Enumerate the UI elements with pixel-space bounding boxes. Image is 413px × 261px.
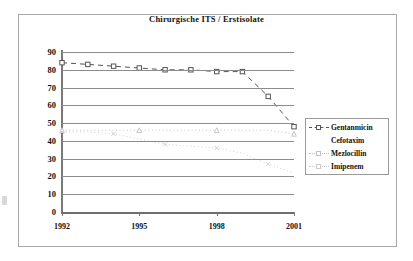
y-tick-label: 0: [28, 207, 56, 217]
gridline: [62, 159, 294, 160]
legend-item-gentanmicin: Gentanmicin: [309, 121, 385, 134]
x-tick-label: 2001: [286, 222, 302, 231]
series-line-imipenem: [62, 132, 294, 173]
plot-area: [62, 52, 294, 212]
series-line-mezlocillin: [62, 130, 294, 134]
y-tick-label: 70: [28, 83, 56, 93]
data-point-marker: [111, 64, 115, 68]
chart-title: Chirurgische ITS / Erstisolate: [0, 14, 413, 24]
series-line-gentanmicin: [62, 63, 294, 127]
y-tick-label: 40: [28, 136, 56, 146]
legend-label: Imipenem: [331, 162, 364, 171]
chart-legend: GentanmicinCefotaximMezlocillinImipenem: [305, 118, 389, 175]
legend-swatch-icon: [309, 162, 329, 171]
y-axis-tick-labels: 9080706050403020100: [26, 52, 56, 212]
x-axis-line: [62, 212, 294, 214]
data-point-marker: [86, 62, 90, 66]
data-point-marker: [163, 142, 167, 146]
data-point-marker: [60, 61, 64, 65]
data-point-marker: [266, 94, 270, 98]
y-tick-label: 20: [28, 171, 56, 181]
gridline: [62, 141, 294, 142]
data-point-marker: [215, 146, 219, 150]
edge-artifact: [2, 196, 7, 205]
legend-label: Gentanmicin: [331, 123, 373, 132]
y-tick-label: 90: [28, 47, 56, 57]
data-point-marker: [292, 125, 296, 129]
y-tick-label: 60: [28, 100, 56, 110]
gridline: [62, 88, 294, 89]
gridline: [62, 105, 294, 106]
gridline: [62, 52, 294, 53]
x-tick-label: 1995: [131, 222, 147, 231]
gridline: [62, 194, 294, 195]
data-point-marker: [266, 162, 270, 166]
legend-swatch-icon: [309, 136, 329, 145]
legend-item-imipenem: Imipenem: [309, 160, 385, 173]
legend-swatch-icon: [309, 123, 329, 132]
legend-item-mezlocillin: Mezlocillin: [309, 147, 385, 160]
y-tick-label: 80: [28, 65, 56, 75]
series-lines: [62, 52, 294, 212]
x-tick-mark: [294, 212, 295, 216]
gridline: [62, 176, 294, 177]
chart-screenshot: Chirurgische ITS / Erstisolate 908070605…: [0, 0, 413, 261]
legend-label: Mezlocillin: [331, 149, 366, 158]
x-tick-label: 1998: [209, 222, 225, 231]
y-tick-label: 50: [28, 118, 56, 128]
legend-swatch-icon: [309, 149, 329, 158]
x-axis-tick-labels: 1992199519982001: [62, 222, 294, 236]
y-tick-label: 10: [28, 189, 56, 199]
legend-label: Cefotaxim: [331, 136, 364, 145]
y-tick-label: 30: [28, 154, 56, 164]
gridline: [62, 123, 294, 124]
legend-item-cefotaxim: Cefotaxim: [309, 134, 385, 147]
data-point-marker: [111, 132, 115, 136]
data-point-marker: [214, 128, 219, 133]
gridline: [62, 70, 294, 71]
data-point-marker: [137, 128, 142, 133]
x-tick-label: 1992: [54, 222, 70, 231]
